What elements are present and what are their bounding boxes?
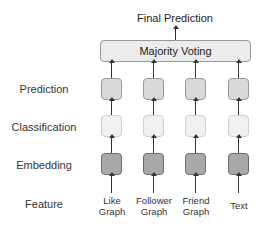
arrow-feat-to-emb-1	[111, 175, 112, 193]
row-label-prediction: Prediction	[20, 83, 69, 95]
arrow-cls-to-pred-2	[153, 100, 154, 115]
arrow-feat-to-emb-4	[238, 175, 239, 193]
arrow-cls-to-pred-4	[238, 100, 239, 115]
row-label-classification: Classification	[12, 121, 77, 133]
feature-label-4: Text	[230, 200, 247, 211]
feature-label-2: FollowerGraph	[136, 195, 172, 217]
arrow-pred-to-vote-1	[111, 62, 112, 78]
arrow-to-final	[175, 28, 176, 40]
arrow-pred-to-vote-3	[195, 62, 196, 78]
row-label-feature: Feature	[25, 198, 63, 210]
arrow-emb-to-cls-3	[195, 137, 196, 153]
arrow-emb-to-cls-1	[111, 137, 112, 153]
arrow-feat-to-emb-3	[195, 175, 196, 193]
majority-voting-box: Majority Voting	[100, 40, 251, 62]
feature-label-1: LikeGraph	[99, 195, 125, 217]
arrow-pred-to-vote-2	[153, 62, 154, 78]
arrow-pred-to-vote-4	[238, 62, 239, 78]
final-prediction-label: Final Prediction	[137, 12, 213, 24]
feature-label-3: FriendGraph	[183, 195, 210, 217]
arrow-cls-to-pred-3	[195, 100, 196, 115]
arrow-feat-to-emb-2	[153, 175, 154, 193]
arrow-emb-to-cls-2	[153, 137, 154, 153]
row-label-embedding: Embedding	[16, 159, 72, 171]
arrow-cls-to-pred-1	[111, 100, 112, 115]
arrow-emb-to-cls-4	[238, 137, 239, 153]
